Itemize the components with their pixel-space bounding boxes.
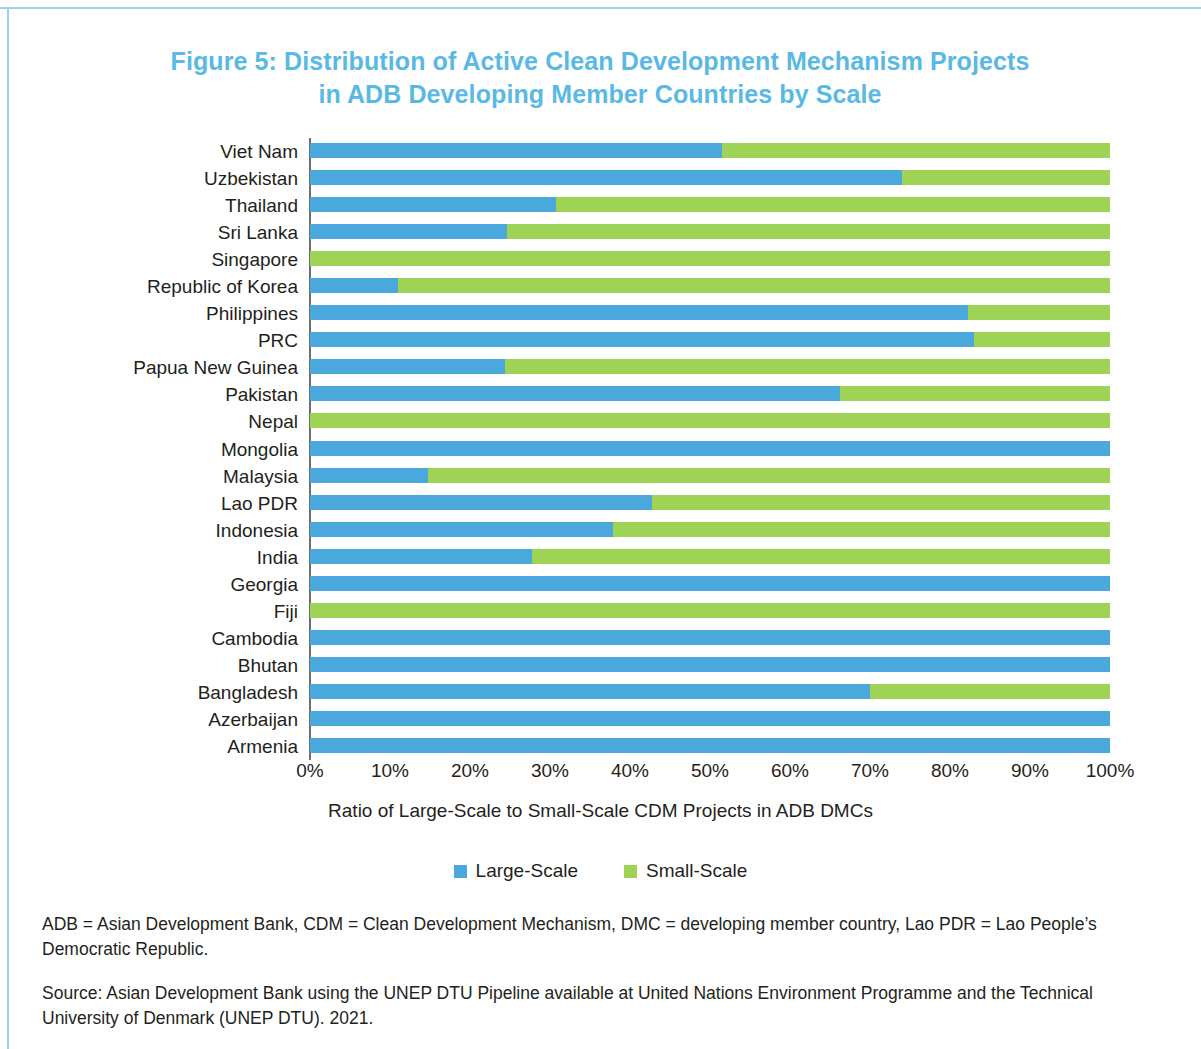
bar-segment-large-scale	[310, 278, 398, 293]
chart-row: Bhutan	[310, 652, 1110, 679]
chart-legend: Large-Scale Small-Scale	[0, 860, 1201, 882]
category-label: Cambodia	[211, 625, 298, 652]
legend-label-large-scale: Large-Scale	[476, 860, 578, 882]
bar-segment-large-scale	[310, 170, 902, 185]
bar-segment-large-scale	[310, 332, 974, 347]
page-border-top	[0, 7, 1201, 9]
chart-row: Mongolia	[310, 436, 1110, 463]
category-label: Uzbekistan	[204, 165, 298, 192]
legend-swatch-large-scale-icon	[454, 865, 467, 878]
chart-area: Viet NamUzbekistanThailandSri LankaSinga…	[0, 138, 1201, 760]
stacked-bar	[310, 738, 1110, 753]
stacked-bar	[310, 197, 1110, 212]
bar-segment-large-scale	[310, 549, 532, 564]
stacked-bar	[310, 495, 1110, 510]
category-label: Republic of Korea	[147, 273, 298, 300]
bar-segment-large-scale	[310, 468, 428, 483]
stacked-bar	[310, 684, 1110, 699]
bar-segment-large-scale	[310, 441, 1110, 456]
chart-row: Viet Nam	[310, 138, 1110, 165]
category-label: Indonesia	[216, 517, 298, 544]
stacked-bar	[310, 332, 1110, 347]
legend-item-large-scale: Large-Scale	[454, 860, 578, 882]
stacked-bar	[310, 359, 1110, 374]
legend-label-small-scale: Small-Scale	[646, 860, 747, 882]
note-source: Source: Asian Development Bank using the…	[42, 981, 1160, 1031]
x-axis-tick-label: 20%	[451, 760, 489, 782]
stacked-bar	[310, 170, 1110, 185]
chart-row: PRC	[310, 327, 1110, 354]
stacked-bar	[310, 576, 1110, 591]
category-label: India	[257, 544, 298, 571]
legend-swatch-small-scale-icon	[624, 865, 637, 878]
category-label: Lao PDR	[221, 490, 298, 517]
bar-segment-large-scale	[310, 305, 968, 320]
x-axis-tick-label: 40%	[611, 760, 649, 782]
bar-segment-large-scale	[310, 657, 1110, 672]
stacked-bar	[310, 278, 1110, 293]
legend-item-small-scale: Small-Scale	[624, 860, 747, 882]
figure-page: Figure 5: Distribution of Active Clean D…	[0, 0, 1201, 1049]
category-label: Thailand	[225, 192, 298, 219]
bar-segment-large-scale	[310, 359, 505, 374]
figure-title: Figure 5: Distribution of Active Clean D…	[90, 45, 1110, 111]
category-label: Malaysia	[223, 463, 298, 490]
category-label: Mongolia	[221, 436, 298, 463]
chart-row: Azerbaijan	[310, 706, 1110, 733]
note-abbreviations: ADB = Asian Development Bank, CDM = Clea…	[42, 912, 1160, 962]
bar-segment-large-scale	[310, 386, 840, 401]
stacked-bar	[310, 386, 1110, 401]
category-label: Georgia	[230, 571, 298, 598]
bar-segment-large-scale	[310, 738, 1110, 753]
x-axis-tick-label: 10%	[371, 760, 409, 782]
chart-row: Cambodia	[310, 625, 1110, 652]
chart-row: Philippines	[310, 300, 1110, 327]
x-axis-tick-label: 0%	[296, 760, 323, 782]
category-label: Nepal	[248, 408, 298, 435]
bar-segment-large-scale	[310, 630, 1110, 645]
chart-row: Lao PDR	[310, 490, 1110, 517]
chart-row: Thailand	[310, 192, 1110, 219]
category-label: Philippines	[206, 300, 298, 327]
figure-title-line-1: Figure 5: Distribution of Active Clean D…	[90, 45, 1110, 78]
x-axis-tick-label: 50%	[691, 760, 729, 782]
bar-segment-large-scale	[310, 522, 613, 537]
stacked-bar	[310, 711, 1110, 726]
chart-row: Indonesia	[310, 517, 1110, 544]
chart-row: Republic of Korea	[310, 273, 1110, 300]
x-axis-tick-label: 60%	[771, 760, 809, 782]
figure-title-line-2: in ADB Developing Member Countries by Sc…	[90, 78, 1110, 111]
plot-rows: Viet NamUzbekistanThailandSri LankaSinga…	[310, 138, 1110, 760]
x-axis-label: Ratio of Large-Scale to Small-Scale CDM …	[0, 800, 1201, 822]
category-label: Azerbaijan	[208, 706, 298, 733]
bar-segment-large-scale	[310, 495, 652, 510]
chart-row: Armenia	[310, 733, 1110, 760]
category-label: Pakistan	[225, 381, 298, 408]
bar-segment-large-scale	[310, 224, 507, 239]
chart-row: Sri Lanka	[310, 219, 1110, 246]
chart-row: Pakistan	[310, 381, 1110, 408]
stacked-bar	[310, 468, 1110, 483]
chart-row: Bangladesh	[310, 679, 1110, 706]
category-label: PRC	[258, 327, 298, 354]
stacked-bar	[310, 657, 1110, 672]
stacked-bar	[310, 522, 1110, 537]
x-axis-tick-label: 100%	[1086, 760, 1135, 782]
chart-row: Papua New Guinea	[310, 354, 1110, 381]
x-axis-tick-label: 90%	[1011, 760, 1049, 782]
bar-segment-large-scale	[310, 576, 1110, 591]
category-label: Fiji	[274, 598, 298, 625]
category-label: Singapore	[211, 246, 298, 273]
chart-row: Fiji	[310, 598, 1110, 625]
category-label: Bhutan	[238, 652, 298, 679]
stacked-bar	[310, 630, 1110, 645]
chart-row: Malaysia	[310, 463, 1110, 490]
stacked-bar	[310, 441, 1110, 456]
chart-row: Georgia	[310, 571, 1110, 598]
stacked-bar	[310, 603, 1110, 618]
bar-segment-large-scale	[310, 197, 556, 212]
category-label: Bangladesh	[198, 679, 298, 706]
stacked-bar	[310, 413, 1110, 428]
x-axis-tick-label: 30%	[531, 760, 569, 782]
category-label: Papua New Guinea	[133, 354, 298, 381]
